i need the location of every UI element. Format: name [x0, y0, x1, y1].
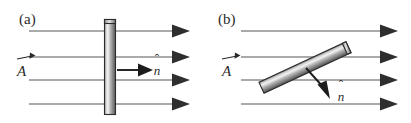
plate-body: [105, 20, 116, 115]
panel-b-label: (b): [218, 11, 236, 28]
plate-top-cap: [105, 20, 116, 24]
figure-canvas: (a): [0, 0, 411, 123]
field-vector-label: A: [221, 63, 232, 79]
normal-vector-label: n: [154, 63, 161, 78]
normal-vector-label: n: [338, 89, 345, 104]
panel-a-label: (a): [19, 11, 36, 28]
flux-figure: (a): [0, 0, 411, 123]
panel-a-plate: [105, 20, 116, 115]
field-vector-label: A: [16, 63, 27, 79]
